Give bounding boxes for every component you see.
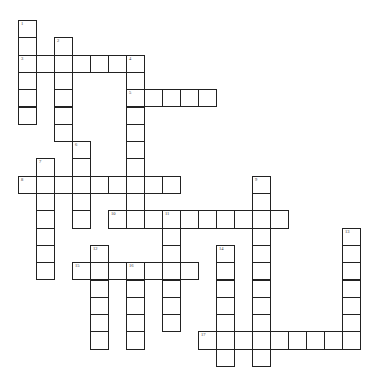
crossword-cell[interactable] [54,176,73,194]
crossword-cell[interactable]: 2 [54,37,73,55]
crossword-cell[interactable] [306,331,325,349]
crossword-cell[interactable] [342,297,361,315]
crossword-cell[interactable] [54,124,73,142]
crossword-cell[interactable]: 3 [18,55,37,73]
crossword-cell[interactable] [18,72,37,90]
crossword-cell[interactable] [252,331,271,349]
crossword-cell[interactable]: 7 [36,158,55,176]
crossword-cell[interactable] [72,158,91,176]
crossword-cell[interactable] [72,176,91,194]
crossword-cell[interactable] [234,210,253,228]
crossword-cell[interactable] [252,210,271,228]
crossword-cell[interactable] [126,158,145,176]
crossword-cell[interactable] [90,297,109,315]
crossword-cell[interactable] [72,210,91,228]
crossword-cell[interactable] [36,193,55,211]
crossword-cell[interactable]: 16 [126,262,145,280]
crossword-cell[interactable] [180,89,199,107]
crossword-cell[interactable] [126,176,145,194]
crossword-cell[interactable] [216,349,235,367]
crossword-cell[interactable] [126,107,145,125]
crossword-cell[interactable]: 12 [90,245,109,263]
crossword-cell[interactable] [216,280,235,298]
crossword-cell[interactable] [108,55,127,73]
crossword-cell[interactable] [324,331,343,349]
crossword-cell[interactable] [270,331,289,349]
crossword-cell[interactable] [162,89,181,107]
crossword-cell[interactable] [126,210,145,228]
crossword-cell[interactable] [126,280,145,298]
crossword-cell[interactable]: 6 [72,141,91,159]
crossword-cell[interactable]: 1 [18,20,37,38]
crossword-cell[interactable] [162,176,181,194]
crossword-cell[interactable] [90,262,109,280]
crossword-cell[interactable] [144,210,163,228]
crossword-cell[interactable] [270,210,289,228]
crossword-cell[interactable] [126,331,145,349]
crossword-cell[interactable] [252,297,271,315]
crossword-cell[interactable]: 13 [342,228,361,246]
crossword-cell[interactable] [342,314,361,332]
crossword-cell[interactable] [198,210,217,228]
crossword-cell[interactable] [162,245,181,263]
crossword-cell[interactable] [36,176,55,194]
crossword-cell[interactable] [252,314,271,332]
crossword-cell[interactable]: 9 [252,176,271,194]
crossword-cell[interactable] [108,176,127,194]
crossword-cell[interactable] [90,55,109,73]
crossword-cell[interactable] [18,37,37,55]
crossword-cell[interactable] [36,262,55,280]
crossword-cell[interactable] [126,124,145,142]
crossword-cell[interactable]: 8 [18,176,37,194]
crossword-cell[interactable] [252,349,271,367]
crossword-cell[interactable] [252,245,271,263]
crossword-cell[interactable] [36,228,55,246]
crossword-cell[interactable] [252,262,271,280]
crossword-cell[interactable] [342,331,361,349]
crossword-cell[interactable]: 17 [198,331,217,349]
crossword-cell[interactable] [126,141,145,159]
crossword-cell[interactable] [90,314,109,332]
crossword-cell[interactable] [234,331,253,349]
crossword-cell[interactable] [36,55,55,73]
crossword-cell[interactable] [108,262,127,280]
crossword-cell[interactable] [198,89,217,107]
crossword-cell[interactable] [342,262,361,280]
crossword-cell[interactable] [216,331,235,349]
crossword-cell[interactable] [162,314,181,332]
crossword-cell[interactable] [162,262,181,280]
crossword-cell[interactable] [162,228,181,246]
crossword-cell[interactable] [36,210,55,228]
crossword-cell[interactable] [216,314,235,332]
crossword-cell[interactable] [252,193,271,211]
crossword-cell[interactable] [90,280,109,298]
crossword-cell[interactable] [90,176,109,194]
crossword-cell[interactable]: 5 [126,89,145,107]
crossword-cell[interactable] [252,280,271,298]
crossword-cell[interactable]: 4 [126,55,145,73]
crossword-cell[interactable] [216,262,235,280]
crossword-cell[interactable] [144,89,163,107]
crossword-cell[interactable] [144,176,163,194]
crossword-cell[interactable]: 10 [108,210,127,228]
crossword-cell[interactable] [72,55,91,73]
crossword-cell[interactable] [342,280,361,298]
crossword-cell[interactable] [162,280,181,298]
crossword-cell[interactable] [288,331,307,349]
crossword-cell[interactable] [54,55,73,73]
crossword-cell[interactable] [144,262,163,280]
crossword-cell[interactable] [126,297,145,315]
crossword-cell[interactable] [216,210,235,228]
crossword-cell[interactable] [126,72,145,90]
crossword-cell[interactable] [54,107,73,125]
crossword-cell[interactable] [252,228,271,246]
crossword-cell[interactable]: 11 [162,210,181,228]
crossword-cell[interactable] [54,89,73,107]
crossword-cell[interactable] [18,107,37,125]
crossword-cell[interactable]: 15 [72,262,91,280]
crossword-cell[interactable] [54,72,73,90]
crossword-cell[interactable] [126,193,145,211]
crossword-cell[interactable] [342,245,361,263]
crossword-cell[interactable] [36,245,55,263]
crossword-cell[interactable] [216,297,235,315]
